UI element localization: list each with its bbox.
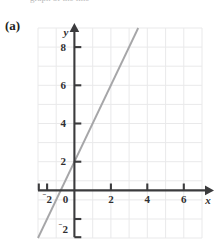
- graph-svg: ⁻2 0 2 4 6 8 6 4 2 ⁻2 y x: [0, 0, 219, 247]
- x-tick-label-2: 2: [108, 193, 114, 205]
- y-tick-label-2: 2: [61, 155, 67, 167]
- x-axis-label: x: [204, 194, 211, 206]
- grid-lines: [38, 28, 202, 238]
- y-tick-label-4: 4: [61, 117, 67, 129]
- x-tick-label-neg2: ⁻2: [42, 192, 52, 206]
- y-tick-label-6: 6: [61, 79, 67, 91]
- y-axis: [70, 23, 82, 237]
- plot-line-series: [38, 28, 138, 238]
- y-tick-label-neg2: ⁻2: [58, 222, 68, 236]
- y-axis-label: y: [62, 26, 69, 38]
- x-tick-label-4: 4: [145, 193, 151, 205]
- x-tick-label-0: 0: [63, 193, 69, 205]
- y-tick-labels: 8 6 4 2 ⁻2: [58, 41, 68, 235]
- y-tick-label-8: 8: [61, 41, 67, 53]
- coordinate-graph-figure: ⁻2 0 2 4 6 8 6 4 2 ⁻2 y x: [0, 0, 219, 247]
- x-tick-label-6: 6: [181, 193, 187, 205]
